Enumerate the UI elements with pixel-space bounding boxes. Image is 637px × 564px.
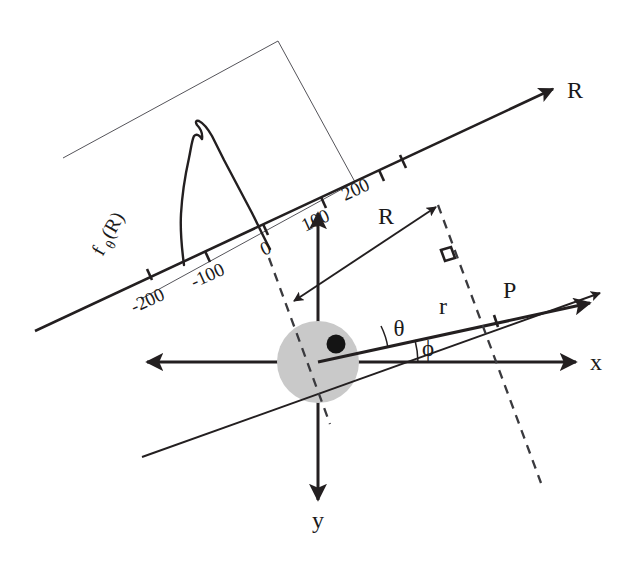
profile-axis-label-arg: (R) xyxy=(96,208,129,242)
R-axis-line xyxy=(35,89,553,331)
r-ray-group: P r xyxy=(318,277,590,362)
R-axis-ticklabel-4: 200 xyxy=(338,174,373,205)
R-axis-group: -200 -100 0 100 200 R xyxy=(35,77,583,331)
object-inclusion-dot xyxy=(327,335,346,354)
R-axis-ticklabel-3: 100 xyxy=(298,205,333,236)
theta-angle-label: θ xyxy=(393,316,404,341)
theta-ray-line xyxy=(142,293,600,457)
x-axis-group: x xyxy=(147,349,602,375)
perpendicular-projection-group xyxy=(438,205,541,483)
right-angle-marker xyxy=(441,247,455,261)
theta-angle-arc xyxy=(381,326,388,348)
distance-R-label: R xyxy=(378,203,394,229)
point-P-label: P xyxy=(503,277,516,303)
projection-geometry-svg: f θ (R) -200 -100 0 100 200 R x xyxy=(0,0,637,564)
angle-arcs-group: ϕ θ xyxy=(381,316,434,362)
profile-axis-label-group: f θ (R) xyxy=(87,208,133,261)
r-ray-line xyxy=(318,303,590,362)
y-axis-label: y xyxy=(312,507,324,533)
figure-canvas: f θ (R) -200 -100 0 100 200 R x xyxy=(0,0,637,564)
R-axis-ticklabel-1: -100 xyxy=(187,258,227,292)
R-axis-ticklabel-2: 0 xyxy=(257,237,274,260)
phi-angle-label: ϕ xyxy=(422,336,434,361)
x-axis-label: x xyxy=(590,349,602,375)
r-length-label: r xyxy=(439,293,447,319)
R-axis-label: R xyxy=(567,77,583,103)
dashed-projection-line xyxy=(438,205,541,483)
R-axis-tick--100 xyxy=(205,251,210,262)
R-axis-tick-200 xyxy=(379,170,384,181)
theta-ray-group xyxy=(142,293,600,457)
